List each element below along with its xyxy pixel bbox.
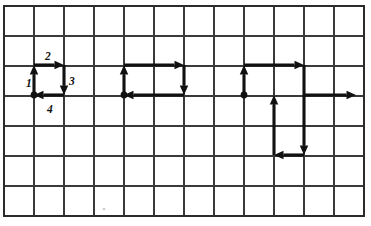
paper-speck — [103, 208, 106, 211]
start-point-dot — [241, 92, 248, 99]
vector-label-1: 1 — [26, 77, 32, 89]
vector-label-3: 3 — [68, 75, 75, 87]
vector-label-4: 4 — [46, 103, 53, 115]
diagram-canvas: 1234 — [0, 0, 371, 226]
diagram-background — [0, 0, 371, 226]
start-point-dot — [31, 92, 38, 99]
vector-label-2: 2 — [44, 50, 51, 62]
grid-vector-diagram: 1234 — [0, 0, 371, 226]
start-point-dot — [121, 92, 128, 99]
